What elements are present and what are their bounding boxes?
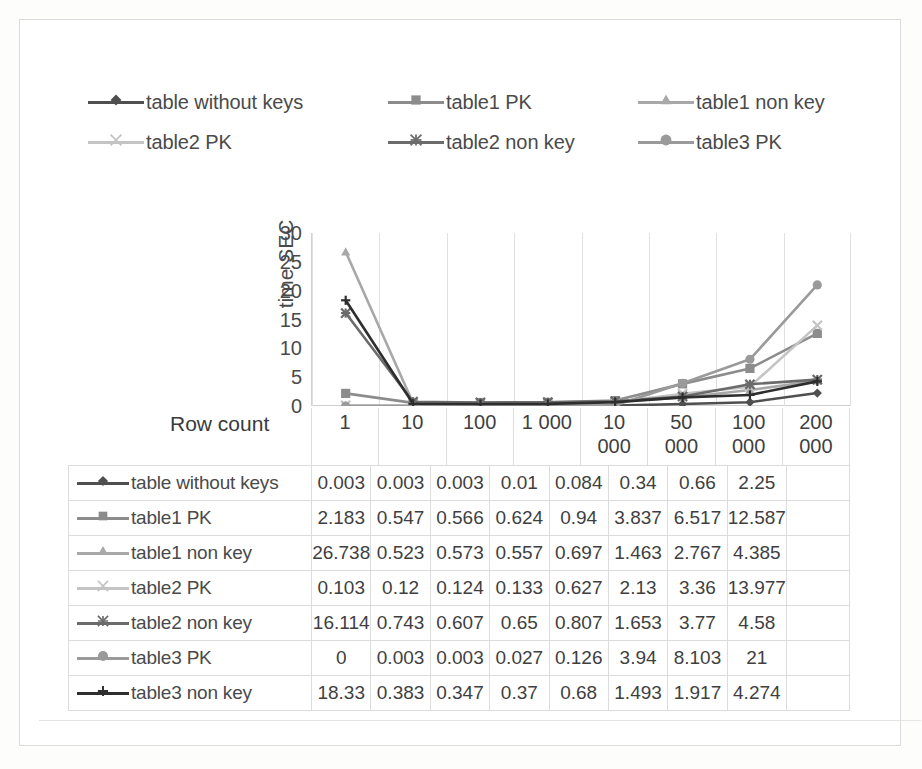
plus-marker-icon — [96, 684, 111, 703]
table-row-key: table1 PK — [69, 501, 312, 535]
x-category-line2: 000 — [799, 434, 832, 458]
data-point — [813, 329, 822, 338]
table-cell: 3.36 — [668, 571, 727, 605]
y-tick-label: 15 — [258, 310, 302, 330]
table-row-label: table2 PK — [131, 577, 212, 599]
x-axis-category-header: 1101001 0001000050000100000200000 — [311, 408, 850, 465]
y-tick-label: 10 — [258, 338, 302, 358]
table-cell: 8.103 — [668, 641, 727, 675]
table-cell: 0.003 — [371, 466, 430, 500]
series-canvas — [312, 233, 851, 406]
table-cell: 0.573 — [431, 536, 490, 570]
table-row-label: table1 PK — [131, 507, 212, 529]
table-row-label: table without keys — [131, 472, 278, 494]
legend-key-x-icon — [75, 577, 131, 599]
x-marker-icon — [96, 579, 111, 598]
table-cell: 0.37 — [490, 676, 549, 710]
table-cell: 0.566 — [431, 501, 490, 535]
table-cell: 0.084 — [550, 466, 609, 500]
x-category-cell: 10000 — [580, 408, 647, 465]
x-category-line1: 200 — [799, 410, 832, 434]
table-row-key: table without keys — [69, 466, 312, 500]
table-cell-empty — [787, 641, 850, 675]
x-category-cell: 1 000 — [513, 408, 580, 465]
table-cell: 0.624 — [490, 501, 549, 535]
table-cell: 0.557 — [490, 536, 549, 570]
x-category-cell: 10 — [378, 408, 445, 465]
data-table: table without keys0.0030.0030.0030.010.0… — [68, 465, 850, 711]
table-cell: 18.33 — [312, 676, 371, 710]
table-cell: 0.807 — [550, 606, 609, 640]
table-cell: 3.837 — [609, 501, 668, 535]
x-category-line2: 000 — [732, 434, 765, 458]
table-cell: 1.463 — [609, 536, 668, 570]
table-row: table1 PK2.1830.5470.5660.6240.943.8376.… — [69, 501, 850, 536]
x-category-line1: 10 — [603, 410, 625, 434]
table-cell: 0.027 — [490, 641, 549, 675]
diamond-marker-icon — [96, 474, 111, 493]
y-axis-tick-labels: 302520151050 — [258, 223, 302, 415]
legend-key-circle-icon — [75, 647, 131, 669]
legend-key-diamond-icon — [75, 472, 131, 494]
triangle-marker-icon — [96, 544, 111, 563]
table-cell: 0.003 — [431, 641, 490, 675]
y-tick-label: 25 — [258, 252, 302, 272]
table-row-key: table2 non key — [69, 606, 312, 640]
table-cell: 4.58 — [728, 606, 787, 640]
table-cell: 0.627 — [550, 571, 609, 605]
data-point — [341, 389, 350, 398]
table-row: table3 non key18.330.3830.3470.370.681.4… — [69, 676, 850, 711]
x-category-cell: 100000 — [715, 408, 782, 465]
table-row-key: table2 PK — [69, 571, 312, 605]
table-row-label: table2 non key — [131, 612, 252, 634]
table-cell: 0.103 — [312, 571, 371, 605]
table-row-key: table3 PK — [69, 641, 312, 675]
data-point — [341, 247, 350, 255]
table-row: table2 non key16.1140.7430.6070.650.8071… — [69, 606, 850, 641]
x-category-line1: 1 — [340, 410, 351, 434]
table-cell: 0.133 — [490, 571, 549, 605]
x-category-line1: 100 — [732, 410, 765, 434]
table-cell: 16.114 — [312, 606, 371, 640]
table-cell: 0.523 — [371, 536, 430, 570]
y-tick-label: 5 — [258, 367, 302, 387]
table-cell: 0.383 — [371, 676, 430, 710]
data-point — [813, 377, 822, 386]
x-axis-title: Row count — [170, 412, 269, 436]
x-category-cell: 100 — [446, 408, 513, 465]
table-cell: 0.66 — [668, 466, 727, 500]
data-point — [813, 280, 822, 289]
table-cell: 0.124 — [431, 571, 490, 605]
table-row-key: table3 non key — [69, 676, 312, 710]
table-cell: 13.977 — [728, 571, 787, 605]
table-cell: 2.25 — [728, 466, 787, 500]
data-point — [745, 380, 754, 389]
table-row: table3 PK00.0030.0030.0270.1263.948.1032… — [69, 641, 850, 676]
table-row-label: table1 non key — [131, 542, 252, 564]
legend-key-triangle-icon — [75, 542, 131, 564]
data-point — [745, 355, 754, 364]
table-cell-empty — [787, 571, 850, 605]
table-cell: 0.34 — [609, 466, 668, 500]
table-cell: 1.493 — [609, 676, 668, 710]
square-marker-icon — [96, 509, 111, 528]
table-cell: 4.385 — [728, 536, 787, 570]
legend-key-plus-icon — [75, 682, 131, 704]
x-category-cell: 50000 — [647, 408, 714, 465]
y-tick-label: 20 — [258, 281, 302, 301]
data-point — [678, 379, 687, 388]
table-row-label: table3 PK — [131, 647, 212, 669]
table-cell: 0.003 — [312, 466, 371, 500]
table-cell: 21 — [728, 641, 787, 675]
table-row: table1 non key26.7380.5230.5730.5570.697… — [69, 536, 850, 571]
table-cell-empty — [787, 606, 850, 640]
table-row-label: table3 non key — [131, 682, 252, 704]
table-cell: 0.68 — [550, 676, 609, 710]
x-category-cell: 200000 — [782, 408, 850, 465]
table-cell: 0.697 — [550, 536, 609, 570]
x-category-line1: 50 — [670, 410, 692, 434]
table-cell: 0.126 — [550, 641, 609, 675]
x-category-line2: 000 — [665, 434, 698, 458]
x-category-line1: 1 000 — [522, 410, 572, 434]
table-cell: 0 — [312, 641, 371, 675]
